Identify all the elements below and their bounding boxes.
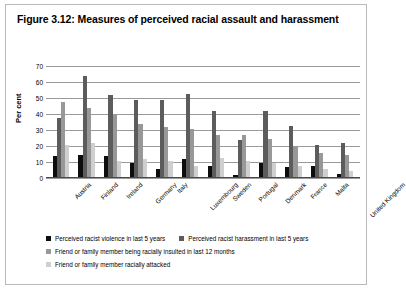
bar-group: [74, 66, 100, 177]
x-tick-label: Austria: [73, 181, 92, 200]
bar: [272, 163, 276, 177]
x-tick-label: United Kingdom: [368, 181, 406, 219]
bar: [220, 158, 224, 177]
bar-group: [177, 66, 203, 177]
y-tick-label: 0: [39, 175, 43, 182]
bar: [117, 161, 121, 177]
legend-row: Friend or family member racially attacke…: [46, 261, 362, 268]
legend-label: Perceived racist harassment in last 5 ye…: [188, 235, 308, 242]
bar: [91, 143, 95, 177]
x-axis-labels: AustriaFinlandIrelandGermanyItalyLuxembo…: [46, 179, 360, 225]
legend-label: Perceived racist violence in last 5 year…: [55, 235, 165, 242]
y-tick-label: 40: [36, 111, 43, 118]
legend-row: Friend or family member being racially i…: [46, 248, 362, 255]
x-tick-label: Italy: [175, 181, 188, 194]
plot-area: 010203040506070: [46, 66, 360, 178]
y-tick-label: 70: [36, 63, 43, 70]
legend-row: Perceived racist violence in last 5 year…: [46, 235, 362, 242]
bar-group: [203, 66, 229, 177]
legend-label: Friend or family member being racially i…: [55, 248, 235, 255]
bar-group: [332, 66, 358, 177]
bar: [168, 161, 172, 177]
bar-group: [306, 66, 332, 177]
legend-item-0: Perceived racist violence in last 5 year…: [46, 235, 165, 242]
x-tick-label: Ireland: [125, 181, 144, 200]
bar-group: [125, 66, 151, 177]
bar: [349, 171, 353, 177]
y-tick-label: 30: [36, 127, 43, 134]
legend-item-3: Friend or family member racially attacke…: [46, 261, 170, 268]
x-tick-label: Denmark: [284, 181, 308, 205]
y-axis-label: Per cent: [14, 93, 23, 123]
figure-title: Figure 3.12: Measures of perceived racia…: [17, 12, 347, 26]
bar-group: [100, 66, 126, 177]
bar-group: [229, 66, 255, 177]
bar: [143, 159, 147, 177]
x-tick-label: France: [309, 181, 328, 200]
legend-item-1: Perceived racist harassment in last 5 ye…: [179, 235, 308, 242]
y-tick-label: 10: [36, 159, 43, 166]
x-tick-label: Portugal: [257, 181, 279, 203]
legend-swatch-icon: [46, 262, 51, 267]
bar: [298, 166, 302, 177]
legend-swatch-icon: [179, 236, 184, 241]
figure-card: Figure 3.12: Measures of perceived racia…: [5, 4, 367, 285]
y-tick-label: 60: [36, 79, 43, 86]
bar: [65, 145, 69, 177]
bar-group: [255, 66, 281, 177]
chart-legend: Perceived racist violence in last 5 year…: [46, 235, 362, 274]
bar: [194, 166, 198, 177]
y-tick-label: 20: [36, 143, 43, 150]
y-tick-label: 50: [36, 95, 43, 102]
legend-item-2: Friend or family member being racially i…: [46, 248, 235, 255]
bar-group: [151, 66, 177, 177]
bar-groups: [46, 66, 360, 177]
bar: [323, 169, 327, 177]
bar-group: [48, 66, 74, 177]
bar: [246, 161, 250, 177]
x-tick-label: Germany: [153, 181, 177, 205]
x-tick-label: Malta: [333, 181, 349, 197]
bar-group: [280, 66, 306, 177]
legend-swatch-icon: [46, 236, 51, 241]
legend-swatch-icon: [46, 249, 51, 254]
x-tick-label: Finland: [99, 181, 119, 201]
legend-label: Friend or family member racially attacke…: [55, 261, 170, 268]
